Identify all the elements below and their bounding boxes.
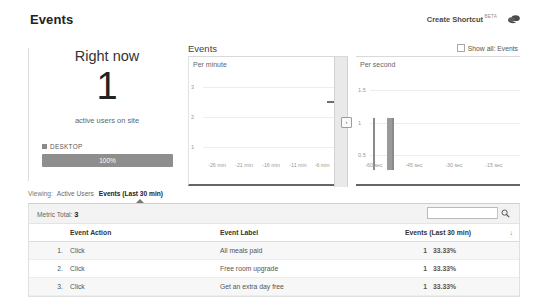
events-data-table: Event Action Event Label ↓ Events (Last … (29, 224, 519, 296)
row-event-count: 1 (405, 260, 433, 278)
per-second-xtick-4: -15 sec (485, 162, 502, 168)
search-icon (501, 209, 510, 218)
row-index: 1. (29, 242, 70, 260)
per-minute-xtick-4: -11 min (289, 162, 306, 168)
table-row[interactable]: 3. Click Get an extra day free 1 33.33% (29, 278, 519, 296)
metric-total-label: Metric Total: (37, 211, 72, 218)
viewing-selector: Viewing:Active UsersEvents (Last 30 min) (28, 190, 520, 203)
per-second-xtick-1: -60 sec (365, 162, 382, 168)
table-row[interactable]: 2. Click Free room upgrade 1 33.33% (29, 260, 519, 278)
row-event-action[interactable]: Click (70, 260, 220, 278)
per-second-ytick-05: 0.5 (358, 152, 366, 158)
create-shortcut-button[interactable]: Create ShortcutBETA (427, 14, 497, 24)
device-legend-desktop: DESKTOP (42, 143, 83, 150)
metric-total-value: 3 (74, 210, 78, 219)
active-users-caption: active users on site (29, 116, 185, 125)
viewing-option-active-users[interactable]: Active Users (57, 190, 94, 197)
checkbox-icon[interactable] (457, 44, 465, 52)
charts-row: Per minute 3 2 1 -26 min -21 min -16 min… (188, 56, 520, 186)
per-minute-label: Per minute (193, 61, 227, 68)
share-icon[interactable] (507, 11, 521, 23)
table-search-box[interactable] (427, 207, 511, 219)
row-event-label[interactable]: Get an extra day free (220, 278, 405, 296)
device-share-bar: 100% (42, 154, 173, 167)
beta-badge: BETA (485, 14, 497, 19)
viewing-label: Viewing: (28, 190, 53, 197)
table-row[interactable]: 1. Click All meals paid 1 33.33% (29, 242, 519, 260)
column-index (29, 224, 70, 242)
events-charts-section: Events Show all: Events Per minute 3 2 1… (188, 40, 520, 186)
row-event-action[interactable]: Click (70, 278, 220, 296)
chart-resize-handle[interactable]: › (341, 117, 352, 128)
viewing-option-events[interactable]: Events (Last 30 min) (99, 190, 163, 197)
column-events[interactable]: ↓ Events (Last 30 min) (405, 224, 519, 242)
metric-total: Metric Total: 3 (37, 210, 78, 219)
per-minute-xtick-5: -6 min (315, 162, 330, 168)
page-title: Events (30, 12, 73, 27)
per-minute-xtick-1: -26 min (208, 162, 226, 168)
row-event-action[interactable]: Click (70, 242, 220, 260)
create-shortcut-label: Create Shortcut (427, 15, 483, 24)
per-minute-ytick-2: 2 (191, 114, 194, 120)
column-event-label[interactable]: Event Label (220, 224, 405, 242)
show-all-events-checkbox[interactable]: Show all: Events (457, 44, 518, 52)
row-index: 2. (29, 260, 70, 278)
per-minute-ytick-3: 3 (191, 84, 194, 90)
per-minute-plot: 3 2 1 -26 min -21 min -16 min -11 min -6… (189, 73, 348, 170)
per-second-xtick-3: -30 sec (445, 162, 462, 168)
search-input[interactable] (428, 208, 502, 218)
right-now-panel: Right now 1 active users on site DESKTOP… (28, 48, 185, 181)
per-second-label: Per second (360, 61, 395, 68)
active-users-count: 1 (29, 66, 185, 106)
device-legend-label: DESKTOP (50, 143, 83, 150)
metric-total-row: Metric Total: 3 (29, 204, 519, 224)
per-second-ytick-1: 1 (358, 120, 361, 126)
per-second-bar (392, 118, 394, 170)
row-event-count: 1 (405, 278, 433, 296)
row-event-percent: 33.33% (433, 242, 519, 260)
row-event-label[interactable]: All meals paid (220, 242, 405, 260)
per-minute-chart: Per minute 3 2 1 -26 min -21 min -16 min… (188, 56, 348, 186)
per-minute-xtick-2: -21 min (235, 162, 253, 168)
per-second-plot: 1.5 1 0.5 -60 sec -45 sec -30 sec -15 se… (356, 73, 520, 170)
charts-section-title: Events (188, 43, 217, 54)
row-event-label[interactable]: Free room upgrade (220, 260, 405, 278)
right-now-title: Right now (29, 48, 185, 64)
per-minute-xtick-3: -16 min (262, 162, 280, 168)
page-header: Events Create ShortcutBETA (0, 0, 543, 36)
row-index: 3. (29, 278, 70, 296)
realtime-events-page: Events Create ShortcutBETA Right now 1 a… (0, 0, 543, 305)
row-event-count: 1 (405, 242, 433, 260)
row-event-percent: 33.33% (433, 278, 519, 296)
per-second-xtick-2: -45 sec (405, 162, 422, 168)
per-minute-ytick-1: 1 (191, 144, 194, 150)
table-header-row: Event Action Event Label ↓ Events (Last … (29, 224, 519, 242)
device-share-value: 100% (99, 157, 116, 164)
show-all-label: Show all: Events (468, 45, 518, 52)
per-second-chart: Per second 1.5 1 0.5 -60 sec -45 sec -30… (356, 56, 520, 186)
sort-descending-icon[interactable]: ↓ (510, 229, 514, 236)
column-events-label: Events (Last 30 min) (405, 229, 471, 236)
search-button[interactable] (497, 207, 511, 219)
legend-swatch-icon (42, 144, 47, 149)
events-table: Metric Total: 3 Event Action Event Lab (28, 203, 520, 297)
per-second-ytick-15: 1.5 (358, 87, 366, 93)
column-event-action[interactable]: Event Action (70, 224, 220, 242)
row-event-percent: 33.33% (433, 260, 519, 278)
